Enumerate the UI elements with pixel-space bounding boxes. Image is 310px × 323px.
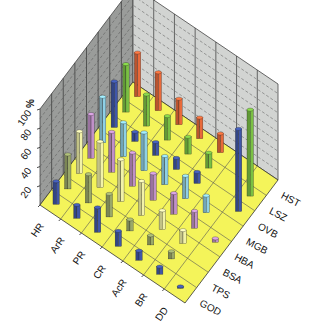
row-label: AcR (109, 277, 129, 299)
bar-hba-pr (129, 151, 135, 186)
bar-mgb-arr (120, 121, 126, 157)
bar-bsa-cr (138, 179, 144, 215)
z-axis-title: % (25, 99, 36, 108)
bar-god-acr (136, 249, 142, 260)
column-label: HBA (233, 251, 257, 271)
column-label: HST (279, 190, 302, 209)
bar-god-br (157, 265, 163, 274)
bar-hst-pr (176, 97, 182, 125)
bar-tps-pr (106, 192, 112, 217)
column-label: TPS (209, 282, 232, 301)
bar-ovb-pr (153, 140, 159, 155)
z-tick-label: 60 (18, 146, 34, 162)
bar-mgb-br (203, 194, 209, 213)
bar-tps-cr (127, 218, 133, 231)
bar-bsa-br (180, 229, 186, 244)
bar-ovb-cr (173, 156, 179, 169)
bar-hst-acr (217, 132, 223, 153)
bar-hba-acr (171, 191, 177, 214)
z-tick-label: 80 (18, 127, 34, 143)
bar-mgb-cr (162, 154, 168, 184)
bar-hba-hr (88, 112, 94, 158)
row-label: ArR (48, 235, 67, 255)
z-tick-label: 40 (18, 165, 34, 181)
bar-lsz-acr (206, 151, 212, 168)
bar-tps-hr (65, 153, 71, 189)
bar-hst-arr (155, 71, 161, 111)
bar-mgb-acr (182, 174, 188, 199)
bar-lsz-dd (247, 108, 253, 196)
bar-mgb-hr (99, 95, 105, 143)
column-label: BSA (221, 267, 244, 286)
bar3d-chart: 20406080100%HRArRPRCRAcRBRDDHSTLSZOVBMGB… (0, 0, 310, 323)
bar-bsa-pr (118, 158, 124, 202)
bar-ovb-arr (132, 130, 138, 141)
row-label: DD (153, 305, 170, 323)
bar-god-arr (74, 203, 80, 218)
column-label: MGB (244, 236, 270, 257)
row-label: HR (29, 221, 46, 239)
column-label: GOD (198, 297, 223, 317)
bar-mgb-pr (141, 131, 147, 171)
bar-hst-hr (134, 51, 140, 97)
bar-hba-dd (212, 237, 218, 242)
bar-lsz-pr (164, 114, 170, 140)
bar-ovb-acr (194, 170, 200, 183)
bar-god-cr (115, 229, 121, 246)
column-label: LSZ (268, 205, 289, 223)
bar-bsa-arr (97, 140, 103, 188)
bar-tps-acr (147, 234, 153, 245)
bar-lsz-cr (185, 135, 191, 154)
bar-hst-cr (196, 116, 202, 139)
bar-ovb-dd (235, 127, 241, 211)
z-tick-label: 100 (15, 107, 34, 127)
bar-ovb-hr (111, 80, 117, 128)
column-label: OVB (256, 220, 280, 240)
z-tick-label: 20 (18, 184, 34, 200)
bar-tps-br (168, 250, 174, 259)
bar-lsz-arr (143, 93, 149, 126)
bar-tps-arr (85, 173, 91, 203)
bar-hba-br (191, 209, 197, 228)
row-label: CR (91, 263, 108, 281)
bar-lsz-hr (123, 62, 129, 112)
bar-god-dd (177, 285, 183, 289)
row-label: BR (133, 291, 150, 309)
bar-hba-arr (109, 130, 115, 172)
bar-god-pr (94, 206, 100, 233)
bar-bsa-acr (159, 209, 165, 230)
row-label: PR (70, 249, 87, 267)
bar-hba-cr (150, 172, 156, 200)
bar-god-hr (53, 180, 59, 205)
bar-bsa-hr (76, 130, 82, 174)
